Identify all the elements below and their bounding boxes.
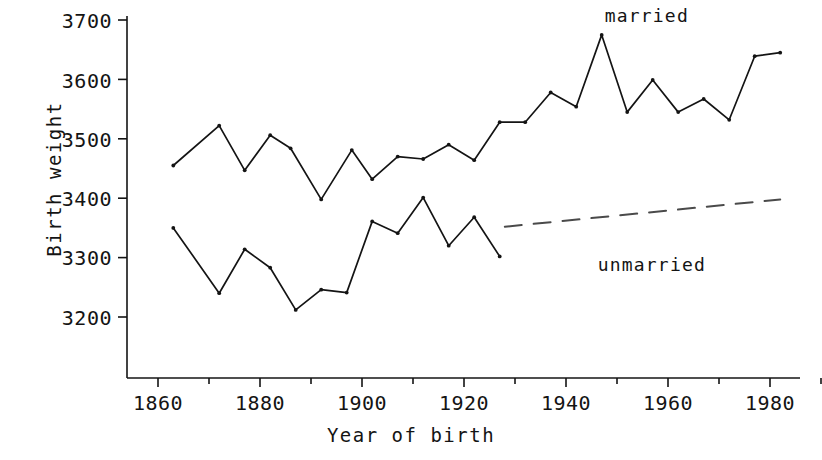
y-axis-ticks [118,20,127,317]
data-point [268,133,272,137]
data-point [447,143,451,147]
data-point [268,266,272,270]
data-point [171,164,175,168]
data-point [778,51,782,55]
series-line-unmarried [173,198,499,310]
data-point [243,168,247,172]
data-point [676,110,680,114]
series-layer [171,33,782,312]
data-point [498,120,502,124]
data-point [396,155,400,159]
data-point [753,54,757,58]
data-point [447,244,451,248]
data-point [350,148,354,152]
data-point [289,146,293,150]
data-point [396,231,400,235]
data-point [727,118,731,122]
data-point [523,120,527,124]
data-point [421,196,425,200]
data-point [651,78,655,82]
data-point [171,226,175,230]
series-line-unmarried-trend [505,199,780,226]
plot-area [0,0,822,460]
data-point [600,33,604,37]
data-point [294,308,298,312]
series-line-married [173,35,780,200]
data-point [319,198,323,202]
chart-figure: Birth weight Year of birth 3700 3600 350… [0,0,822,460]
data-point [472,215,476,219]
data-point [370,177,374,181]
data-point [243,247,247,251]
data-point [549,91,553,95]
axis-lines [127,16,800,378]
data-point [498,255,502,259]
data-point [472,158,476,162]
x-axis-ticks [158,378,821,387]
data-point [702,97,706,101]
data-point [217,124,221,128]
data-point [345,291,349,295]
data-point [319,288,323,292]
data-point [625,110,629,114]
data-point [421,157,425,161]
data-point [217,291,221,295]
data-point [370,220,374,224]
data-point [574,105,578,109]
